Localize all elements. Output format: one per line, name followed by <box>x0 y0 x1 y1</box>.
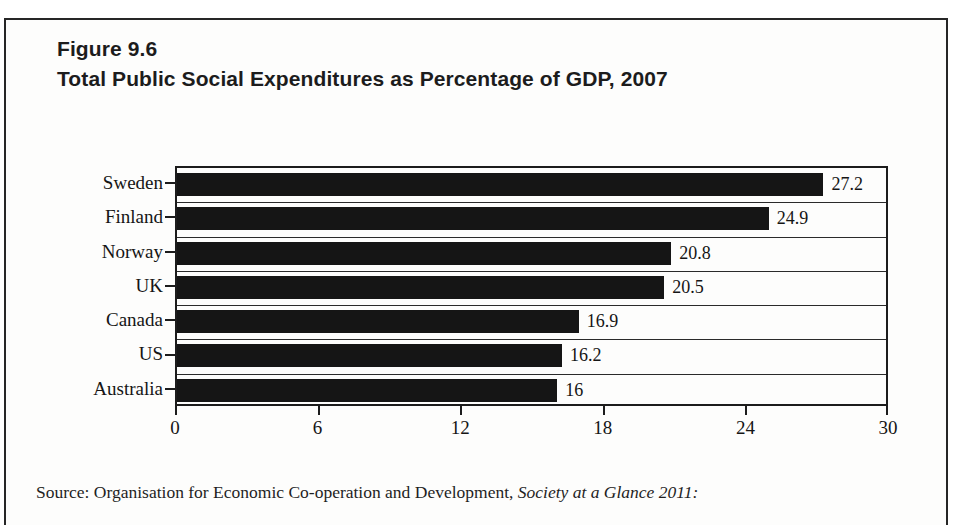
value-axis: 0612182430 <box>175 406 888 452</box>
value-tick-label: 24 <box>736 417 755 439</box>
value-tick-label: 6 <box>313 417 323 439</box>
figure-title: Total Public Social Expenditures as Perc… <box>57 64 897 94</box>
bar-value-label: 16 <box>557 378 583 402</box>
bar-row: 20.5 <box>177 271 886 305</box>
category-label: Australia <box>93 372 163 406</box>
value-tick-mark <box>603 406 605 415</box>
value-tick-label: 18 <box>593 417 612 439</box>
bar-row: 16 <box>177 374 886 408</box>
source-note: Source: Organisation for Economic Co-ope… <box>36 479 936 505</box>
bar-row: 27.2 <box>177 168 886 202</box>
bar-chart: SwedenFinlandNorwayUKCanadaUSAustralia 2… <box>57 166 892 411</box>
bar <box>177 207 769 230</box>
figure-heading: Figure 9.6 Total Public Social Expenditu… <box>57 34 897 94</box>
bar <box>177 173 823 196</box>
category-tick-mark <box>165 251 175 253</box>
value-tick-mark <box>175 406 177 415</box>
bar-value-label: 24.9 <box>769 206 809 230</box>
plot-inner: 27.224.920.820.516.916.216 <box>177 168 886 404</box>
category-axis-labels: SwedenFinlandNorwayUKCanadaUSAustralia <box>57 166 169 406</box>
category-label: Canada <box>106 303 163 337</box>
value-tick-mark <box>318 406 320 415</box>
value-tick-mark <box>460 406 462 415</box>
category-tick-mark <box>165 216 175 218</box>
category-label: Sweden <box>103 166 163 200</box>
category-label: Finland <box>105 200 163 234</box>
category-tick-mark <box>165 285 175 287</box>
bar <box>177 344 562 367</box>
bar <box>177 310 579 333</box>
bar-row: 16.9 <box>177 305 886 339</box>
value-tick-mark <box>745 406 747 415</box>
value-tick-label: 12 <box>451 417 470 439</box>
bar <box>177 379 557 402</box>
source-note-prefix: Source: Organisation for Economic Co-ope… <box>36 482 513 502</box>
value-tick-label: 0 <box>170 417 180 439</box>
plot-area: 27.224.920.820.516.916.216 <box>175 166 888 406</box>
category-tick-mark <box>165 319 175 321</box>
bar-value-label: 20.8 <box>671 241 711 265</box>
bar-row: 20.8 <box>177 237 886 271</box>
value-tick-mark <box>886 406 888 415</box>
bar-row: 24.9 <box>177 202 886 236</box>
bar-value-label: 20.5 <box>664 275 704 299</box>
bar-value-label: 16.2 <box>562 343 602 367</box>
category-tick-mark <box>165 182 175 184</box>
category-label: UK <box>136 269 163 303</box>
category-tick-mark <box>165 388 175 390</box>
bar-row: 16.2 <box>177 339 886 373</box>
bar-value-label: 27.2 <box>823 172 863 196</box>
figure-number: Figure 9.6 <box>57 34 897 64</box>
category-label: Norway <box>102 235 163 269</box>
category-label: US <box>139 337 163 371</box>
bar-value-label: 16.9 <box>579 309 619 333</box>
value-tick-label: 30 <box>879 417 898 439</box>
bar <box>177 242 671 265</box>
category-tick-mark <box>165 354 175 356</box>
source-note-title: Society at a Glance 2011: <box>518 482 698 502</box>
bar <box>177 276 664 299</box>
